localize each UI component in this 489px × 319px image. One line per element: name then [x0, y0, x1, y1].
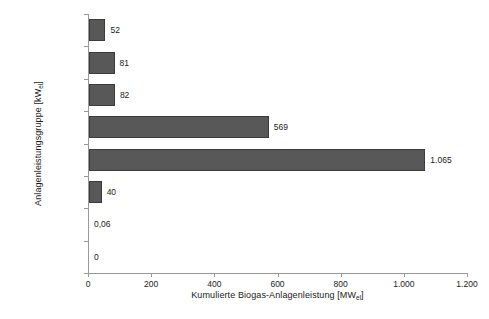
x-axis-tick	[214, 273, 215, 277]
bar	[89, 149, 425, 171]
plot-area: > 2.000521.000 - 2.00081750 - 1.00082500…	[88, 14, 467, 273]
y-axis-tick	[84, 111, 88, 112]
x-axis-tick-label: 600	[270, 279, 284, 289]
y-axis-title-suffix: ]	[33, 81, 43, 84]
y-axis-tick	[84, 208, 88, 209]
bar	[89, 19, 105, 41]
x-axis-tick-label: 200	[144, 279, 158, 289]
x-axis-tick-label: 1.000	[393, 279, 414, 289]
bar-value-label: 0	[94, 252, 99, 262]
bar	[89, 84, 115, 106]
x-axis-title: Kumulierte Biogas-Anlagenleistung [MWel]	[88, 290, 467, 301]
bar	[89, 116, 269, 138]
bar-value-label: 1.065	[430, 155, 451, 165]
y-axis-title-text: Anlagenleistungsgruppe [kW	[33, 89, 43, 206]
x-axis-tick	[278, 273, 279, 277]
x-axis-tick-label: 0	[86, 279, 91, 289]
bar-value-label: 40	[107, 187, 116, 197]
x-axis-title-suffix: ]	[361, 290, 364, 300]
bar	[89, 52, 115, 74]
bar	[89, 181, 102, 203]
x-axis-tick	[404, 273, 405, 277]
bar-value-label: 52	[110, 25, 119, 35]
y-axis-tick	[84, 79, 88, 80]
y-axis-title-subscript: el	[37, 84, 44, 89]
y-axis-tick	[84, 144, 88, 145]
y-axis-tick	[84, 241, 88, 242]
x-axis-tick	[341, 273, 342, 277]
bar-value-label: 569	[274, 122, 288, 132]
bar-value-label: 82	[120, 90, 129, 100]
bar-value-label: 0,06	[94, 219, 111, 229]
x-axis-tick-label: 400	[207, 279, 221, 289]
bar-chart: Anlagenleistungsgruppe [kWel] Kumulierte…	[0, 0, 489, 319]
y-axis-tick	[84, 14, 88, 15]
y-axis-tick	[84, 46, 88, 47]
x-axis-tick-label: 800	[334, 279, 348, 289]
x-axis-tick	[467, 273, 468, 277]
y-axis-tick	[84, 176, 88, 177]
x-axis-title-text: Kumulierte Biogas-Anlagenleistung [MW	[191, 290, 356, 300]
x-axis-tick	[151, 273, 152, 277]
y-axis-title: Anlagenleistungsgruppe [kWel]	[33, 44, 44, 244]
bar-value-label: 81	[120, 58, 129, 68]
x-axis-tick	[88, 273, 89, 277]
x-axis-tick-label: 1.200	[456, 279, 477, 289]
